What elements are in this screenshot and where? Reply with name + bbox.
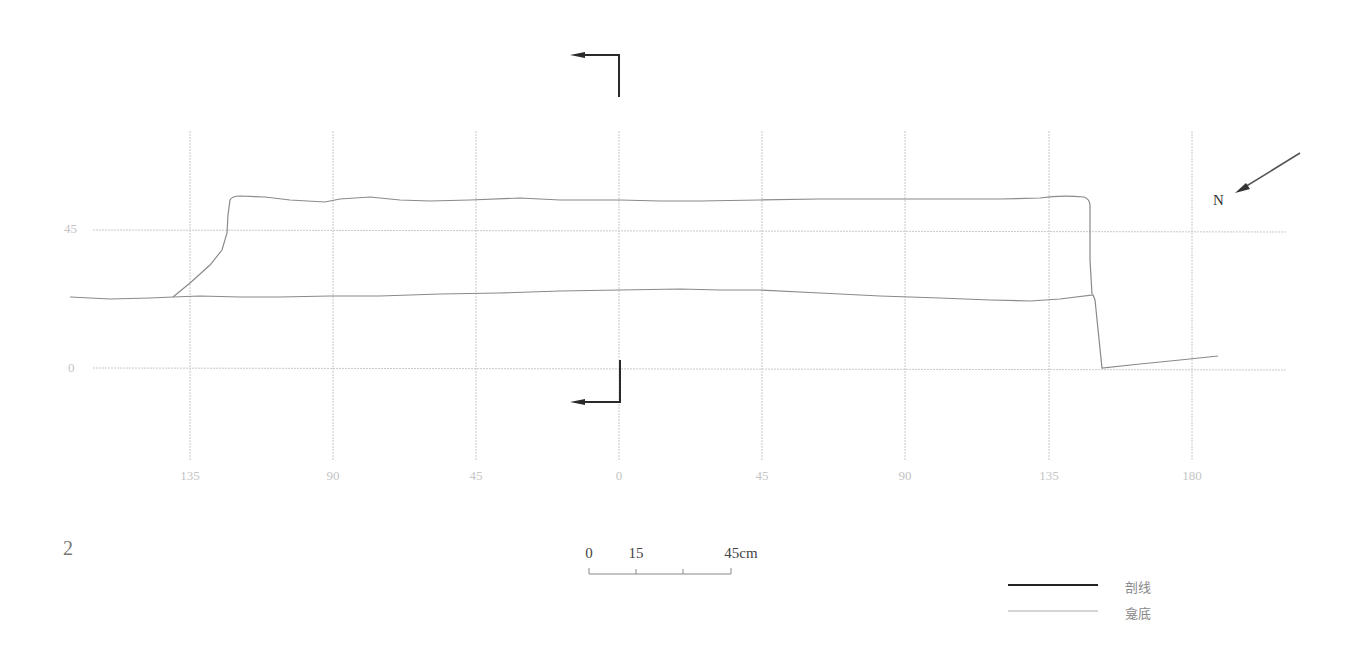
x-tick: 90 [327,468,340,484]
x-tick: 180 [1182,468,1202,484]
niche-bottom-profile [70,289,1218,368]
scale-label-15: 15 [629,545,644,562]
niche-profile-drawing [0,0,1370,659]
scale-label-0: 0 [585,545,593,562]
x-tick: 90 [899,468,912,484]
y-tick-45: 45 [64,221,77,237]
x-tick: 45 [470,468,483,484]
y-tick-0: 0 [68,360,75,376]
x-tick: 135 [1039,468,1059,484]
legend-label-section-line: 剖线 [1125,577,1151,596]
north-label: N [1213,192,1224,209]
x-tick: 45 [756,468,769,484]
section-marker-top [570,52,619,97]
niche-top-profile [173,196,1092,297]
horizontal-grid [93,230,1287,370]
north-arrow-icon [1235,153,1300,193]
scale-label-45cm: 45cm [724,545,757,562]
legend-label-niche-bottom: 龛底 [1125,603,1151,622]
x-tick: 0 [616,468,623,484]
section-marker-bottom [570,360,620,405]
scale-bar [589,568,731,574]
legend-lines [1008,585,1098,611]
figure-number: 2 [63,537,73,560]
x-tick: 135 [180,468,200,484]
